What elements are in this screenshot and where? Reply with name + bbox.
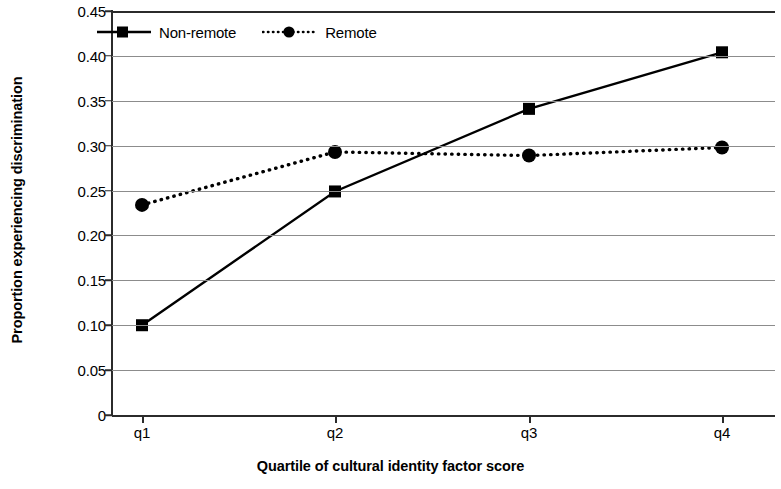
y-axis-tick-label: 0.30	[48, 137, 106, 154]
gridline	[112, 146, 775, 147]
data-point-marker	[715, 140, 729, 154]
data-series-layer	[112, 11, 775, 415]
x-axis-tick-label: q3	[499, 424, 559, 441]
line-chart-figure: Proportion experiencing discrimination 0…	[0, 0, 781, 489]
legend-item-non-remote: Non-remote	[96, 24, 236, 41]
legend-label-remote: Remote	[325, 24, 376, 41]
chart-legend: Non-remote Remote	[96, 21, 377, 43]
y-axis-tick-mark	[105, 145, 112, 147]
y-axis-tick-mark	[105, 369, 112, 371]
y-axis-tick-label: 0.05	[48, 362, 106, 379]
y-axis-tick-label: 0.45	[48, 3, 106, 20]
y-axis-tick-labels: 00.050.100.150.200.250.300.350.400.45	[40, 0, 106, 489]
data-point-marker	[523, 103, 535, 115]
legend-dotted-line-circle-marker-icon	[262, 24, 318, 40]
x-axis-tick-mark	[335, 416, 337, 423]
y-axis-tick-mark	[105, 235, 112, 237]
y-axis-tick-mark	[105, 55, 112, 57]
legend-solid-line-square-marker-icon	[96, 24, 152, 40]
y-axis-title: Proportion experiencing discrimination	[0, 0, 34, 420]
y-axis-tick-mark	[105, 414, 112, 416]
y-axis-tick-label: 0.10	[48, 317, 106, 334]
gridline	[112, 191, 775, 192]
x-axis-tick-mark	[722, 416, 724, 423]
gridline	[112, 370, 775, 371]
gridline	[112, 11, 775, 13]
x-axis-tick-label: q4	[692, 424, 752, 441]
gridline	[112, 325, 775, 326]
x-axis-tick-mark	[142, 416, 144, 423]
y-axis-tick-mark	[105, 10, 112, 12]
y-axis-tick-label: 0.20	[48, 227, 106, 244]
data-point-marker	[328, 145, 342, 159]
series-line-non-remote	[142, 52, 722, 325]
legend-label-non-remote: Non-remote	[159, 24, 236, 41]
gridline	[112, 235, 775, 236]
y-axis-tick-mark	[105, 100, 112, 102]
y-axis-tick-mark	[105, 324, 112, 326]
gridline	[112, 101, 775, 102]
y-axis-tick-label: 0.40	[48, 47, 106, 64]
legend-item-remote: Remote	[262, 24, 376, 41]
y-axis-tick-label: 0.15	[48, 272, 106, 289]
x-axis-line	[112, 415, 775, 417]
y-axis-tick-mark	[105, 190, 112, 192]
x-axis-tick-label: q2	[305, 424, 365, 441]
data-point-marker	[135, 198, 149, 212]
y-axis-tick-mark	[105, 280, 112, 282]
y-axis-tick-label: 0.25	[48, 182, 106, 199]
x-axis-tick-label: q1	[112, 424, 172, 441]
x-axis-tick-mark	[529, 416, 531, 423]
plot-area	[112, 11, 775, 415]
y-axis-title-text: Proportion experiencing discrimination	[9, 77, 25, 344]
gridline	[112, 280, 775, 281]
y-axis-tick-label: 0.35	[48, 92, 106, 109]
data-point-marker	[522, 149, 536, 163]
gridline	[112, 56, 775, 57]
x-axis-title: Quartile of cultural identity factor sco…	[0, 458, 781, 474]
series-line-remote	[142, 147, 722, 204]
y-axis-tick-label: 0	[48, 407, 106, 424]
